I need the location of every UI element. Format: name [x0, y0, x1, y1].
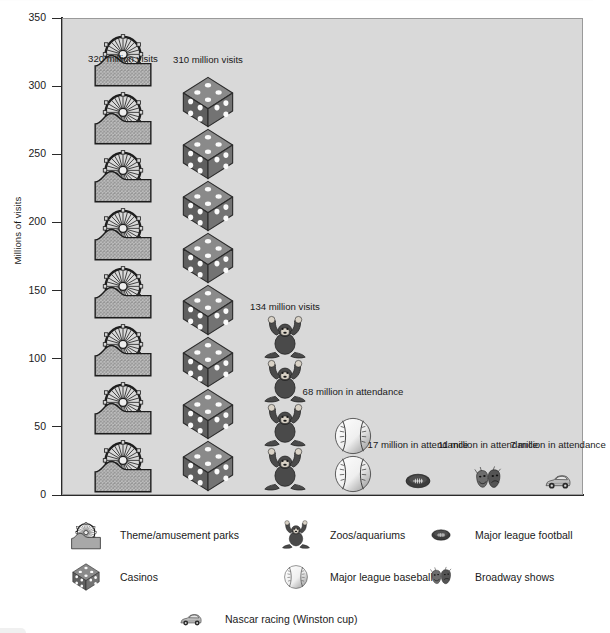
y-tick-label: 50: [0, 421, 46, 432]
legend-row: Theme/amusement parks Zoos/aquariums Maj…: [0, 518, 593, 556]
symbol-unit: [259, 446, 311, 494]
dice-icon: [69, 562, 103, 592]
value-label-zoos: 134 million visits: [233, 301, 337, 312]
theater-masks-icon: [415, 560, 467, 594]
legend-item-nascar-racing-winston-cup[interactable]: Nascar racing (Winston cup): [165, 602, 357, 633]
symbol-unit: [259, 402, 311, 450]
dice-icon: [171, 230, 245, 286]
value-label-casinos: 310 million visits: [156, 54, 260, 65]
dice-icon: [60, 560, 112, 594]
baseball-icon: [270, 560, 322, 594]
value-label-nascar: 7 million in attendance: [506, 439, 610, 450]
symbol-unit: [79, 146, 167, 204]
gorilla-icon: [259, 402, 311, 450]
symbol-unit: [171, 334, 245, 390]
legend-label: Theme/amusement parks: [120, 529, 239, 541]
value-label-baseball: 68 million in attendance: [301, 386, 405, 397]
race-car-icon: [527, 468, 589, 494]
y-tick-label: 250: [0, 148, 46, 159]
y-axis-title: Millions of visits: [12, 176, 23, 286]
race-car-icon: [169, 608, 213, 630]
plot-area: 320 million visits: [62, 18, 583, 495]
symbol-unit: [259, 358, 311, 406]
gorilla-icon: [259, 446, 311, 494]
ferris-wheel-icon: [79, 88, 167, 146]
legend-item-theme-amusement-parks[interactable]: Theme/amusement parks: [60, 518, 239, 552]
dice-icon: [171, 74, 245, 130]
symbol-unit: [527, 468, 589, 494]
ferris-wheel-icon: [79, 146, 167, 204]
symbol-unit: [79, 88, 167, 146]
dice-icon: [171, 334, 245, 390]
legend-label: Nascar racing (Winston cup): [225, 613, 357, 625]
gorilla-icon: [279, 519, 313, 551]
pictograph-column-broadway[interactable]: [464, 464, 512, 494]
symbol-unit: [464, 464, 512, 494]
legend-label: Casinos: [120, 571, 158, 583]
pictograph-column-theme-parks[interactable]: [79, 30, 167, 494]
theater-masks-icon: [464, 464, 512, 494]
ferris-wheel-icon: [79, 262, 167, 320]
y-tick-label: 350: [0, 12, 46, 23]
pictograph-column-zoos[interactable]: [259, 318, 311, 494]
legend-label: Broadway shows: [475, 571, 554, 583]
legend-label: Major league football: [475, 529, 572, 541]
ferris-wheel-icon: [64, 520, 108, 550]
legend-item-broadway-shows[interactable]: Broadway shows: [415, 560, 554, 594]
dice-icon: [171, 386, 245, 442]
baseball-icon: [283, 564, 309, 590]
baseball-icon: [329, 454, 377, 494]
ferris-wheel-icon: [79, 436, 167, 494]
symbol-unit: [171, 386, 245, 442]
legend-row: Casinos Major league baseball Broadway s…: [0, 560, 593, 598]
symbol-unit: [259, 314, 311, 362]
symbol-unit: [171, 126, 245, 182]
pictograph-column-nascar[interactable]: [527, 468, 589, 494]
football-icon: [415, 518, 467, 552]
symbol-unit: [79, 320, 167, 378]
gorilla-icon: [259, 314, 311, 362]
football-icon: [424, 525, 458, 545]
legend-item-casinos[interactable]: Casinos: [60, 560, 158, 594]
gorilla-icon: [270, 518, 322, 552]
legend-item-major-league-football[interactable]: Major league football: [415, 518, 572, 552]
ferris-wheel-icon: [60, 518, 112, 552]
symbol-unit: [329, 454, 377, 494]
pictograph-column-football[interactable]: [392, 468, 444, 494]
symbol-unit: [171, 178, 245, 234]
symbol-unit: [79, 262, 167, 320]
football-icon: [392, 468, 444, 494]
gorilla-icon: [259, 358, 311, 406]
legend-label: Zoos/aquariums: [330, 529, 405, 541]
symbol-unit: [171, 438, 245, 494]
legend-row: Nascar racing (Winston cup): [0, 602, 593, 633]
y-tick-label: 100: [0, 353, 46, 364]
race-car-icon: [165, 602, 217, 633]
symbol-unit: [79, 436, 167, 494]
y-tick-label: 0: [0, 489, 46, 500]
symbol-unit: [79, 378, 167, 436]
legend-item-major-league-baseball[interactable]: Major league baseball: [270, 560, 433, 594]
symbol-unit: [392, 468, 444, 494]
scan-edge-artifact: [0, 628, 26, 633]
y-tick-label: 200: [0, 216, 46, 227]
scan-edge-top: [0, 0, 593, 1]
dice-icon: [171, 126, 245, 182]
symbol-unit: [171, 230, 245, 286]
symbol-unit: [171, 74, 245, 130]
pictograph-column-baseball[interactable]: [329, 418, 377, 494]
y-tick-label: 300: [0, 80, 46, 91]
y-tick-label: 150: [0, 285, 46, 296]
ferris-wheel-icon: [79, 378, 167, 436]
theater-masks-icon: [425, 565, 457, 589]
chart-legend: Theme/amusement parks Zoos/aquariums Maj…: [0, 512, 593, 633]
dice-icon: [171, 178, 245, 234]
symbol-unit: [79, 204, 167, 262]
dice-icon: [171, 438, 245, 494]
ferris-wheel-icon: [79, 320, 167, 378]
ferris-wheel-icon: [79, 204, 167, 262]
pictograph-column-casinos[interactable]: [171, 78, 245, 494]
legend-item-zoos-aquariums[interactable]: Zoos/aquariums: [270, 518, 405, 552]
